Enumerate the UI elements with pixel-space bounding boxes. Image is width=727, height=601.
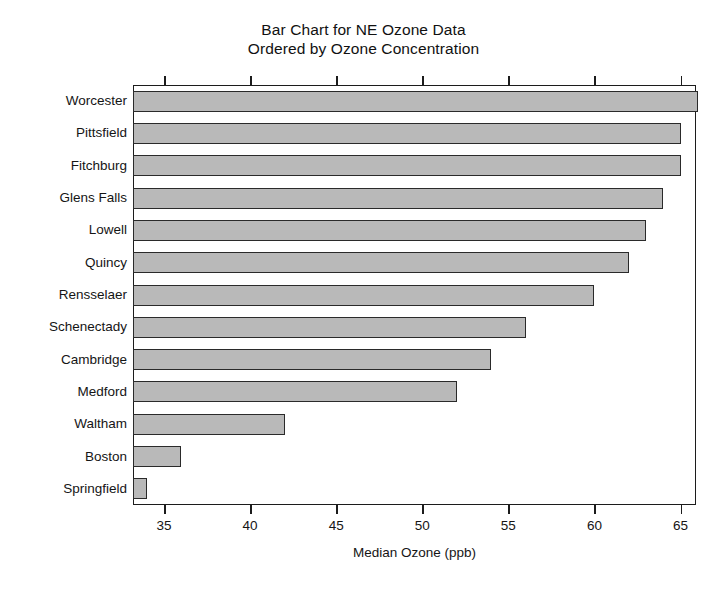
x-axis-tick-mark bbox=[681, 505, 683, 514]
x-axis-tick-label: 35 bbox=[134, 518, 194, 533]
x-axis-tick-mark-top bbox=[594, 76, 596, 85]
y-axis-tick-label: Rensselaer bbox=[7, 288, 127, 302]
chart-title-line1: Bar Chart for NE Ozone Data bbox=[261, 21, 465, 38]
y-axis-tick-label: Schenectady bbox=[7, 320, 127, 334]
x-axis-tick-label: 55 bbox=[478, 518, 538, 533]
y-axis-tick-label: Worcester bbox=[7, 94, 127, 108]
x-axis-tick-mark bbox=[250, 505, 252, 514]
bar bbox=[133, 478, 147, 499]
y-axis-tick-label: Glens Falls bbox=[7, 191, 127, 205]
y-axis-tick-label: Boston bbox=[7, 450, 127, 464]
bar bbox=[133, 123, 681, 144]
x-axis-tick-mark bbox=[594, 505, 596, 514]
bars-layer bbox=[133, 85, 696, 505]
bar-chart: Bar Chart for NE Ozone Data Ordered by O… bbox=[0, 0, 727, 601]
bar bbox=[133, 285, 594, 306]
bar bbox=[133, 155, 681, 176]
x-axis-tick-mark bbox=[336, 505, 338, 514]
x-axis-tick-label: 40 bbox=[220, 518, 280, 533]
x-axis-title: Median Ozone (ppb) bbox=[133, 545, 696, 560]
chart-title-line2: Ordered by Ozone Concentration bbox=[0, 39, 727, 58]
x-axis-tick-mark bbox=[508, 505, 510, 514]
bar bbox=[133, 349, 491, 370]
bar bbox=[133, 91, 698, 112]
y-axis-tick-label: Pittsfield bbox=[7, 126, 127, 140]
x-axis-tick-label: 65 bbox=[651, 518, 711, 533]
y-axis-tick-label: Lowell bbox=[7, 223, 127, 237]
x-axis-tick-mark-top bbox=[164, 76, 166, 85]
y-axis-tick-label: Fitchburg bbox=[7, 159, 127, 173]
bar bbox=[133, 446, 181, 467]
y-axis-tick-label: Waltham bbox=[7, 417, 127, 431]
y-axis-tick-label: Quincy bbox=[7, 256, 127, 270]
y-axis-tick-label: Springfield bbox=[7, 482, 127, 496]
x-axis-tick-label: 60 bbox=[564, 518, 624, 533]
bar bbox=[133, 414, 285, 435]
x-axis-tick-label: 45 bbox=[306, 518, 366, 533]
x-axis-tick-mark bbox=[164, 505, 166, 514]
y-axis-category-labels: WorcesterPittsfieldFitchburgGlens FallsL… bbox=[5, 85, 127, 505]
x-axis-tick-mark-top bbox=[681, 76, 683, 85]
bar bbox=[133, 381, 457, 402]
x-axis-tick-mark-top bbox=[508, 76, 510, 85]
y-axis-tick-label: Medford bbox=[7, 385, 127, 399]
y-axis-tick-label: Cambridge bbox=[7, 353, 127, 367]
bar bbox=[133, 252, 629, 273]
bar bbox=[133, 317, 526, 338]
bar bbox=[133, 188, 663, 209]
x-axis-tick-mark-top bbox=[250, 76, 252, 85]
x-axis-tick-label: 50 bbox=[392, 518, 452, 533]
x-axis-tick-mark-top bbox=[336, 76, 338, 85]
chart-title: Bar Chart for NE Ozone Data Ordered by O… bbox=[0, 20, 727, 58]
x-axis-tick-mark-top bbox=[422, 76, 424, 85]
bar bbox=[133, 220, 646, 241]
x-axis-tick-mark bbox=[422, 505, 424, 514]
